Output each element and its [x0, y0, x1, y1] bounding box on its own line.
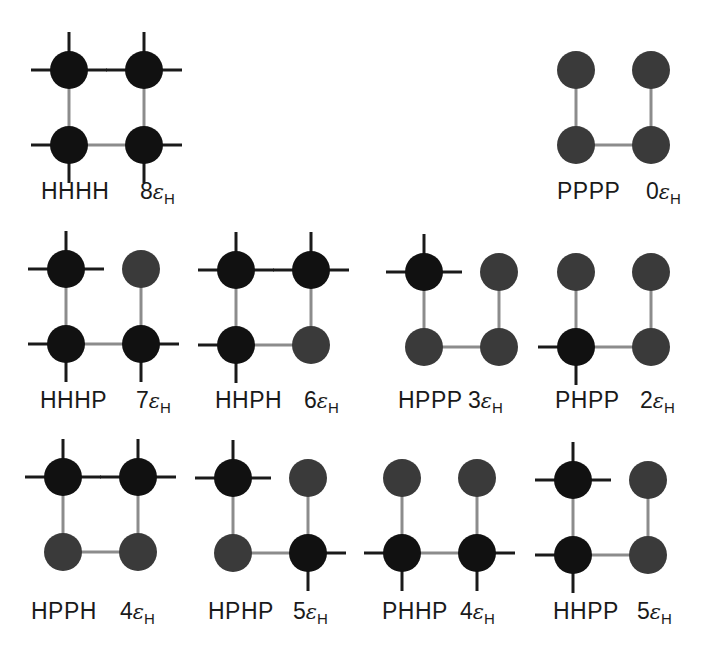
polar-residue-bottom-right: [629, 536, 667, 574]
energy-label: 5εH: [637, 600, 672, 623]
polar-residue-top-right: [629, 461, 667, 499]
epsilon-symbol: ε: [650, 600, 661, 624]
energy-multiplier: 5: [637, 598, 650, 624]
lattice-diagram: [0, 0, 718, 663]
energy-subscript: H: [661, 610, 672, 627]
hydrophobic-residue-top-left: [554, 461, 592, 499]
hp-model-figure: HHHH8εHPPPP0εHHHHP7εHHHPH6εHHPPP3εHPHPP2…: [0, 0, 718, 663]
sequence-label: HHPP: [553, 600, 619, 623]
hydrophobic-residue-bottom-left: [554, 536, 592, 574]
